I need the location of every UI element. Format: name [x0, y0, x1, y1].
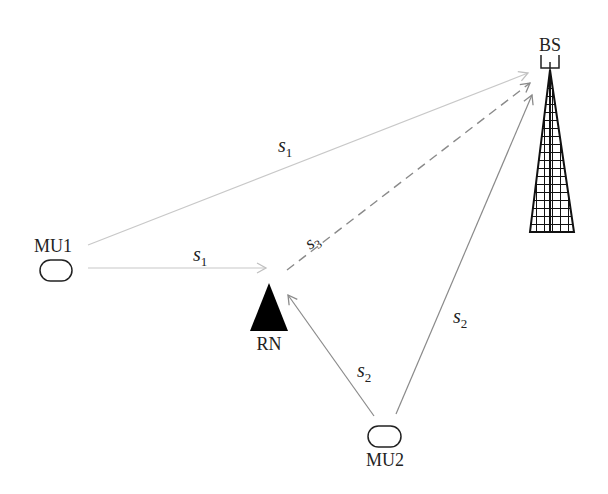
mu2-label: MU2: [366, 450, 404, 470]
edge-label-mu2-rn: s2: [357, 359, 371, 385]
mu2-device-icon: [368, 426, 401, 447]
edge-label-rn-bs: s3: [301, 230, 325, 256]
bs-tower-icon: [530, 55, 574, 232]
bs-label: BS: [539, 35, 561, 55]
mu1-device-icon: [40, 260, 72, 281]
relay-network-diagram: s1 s1 s3 s2 s2 BS MU1 RN MU2: [0, 0, 608, 494]
edge-label-mu1-rn: s1: [193, 243, 207, 269]
mu1-label: MU1: [34, 236, 72, 256]
rn-label: RN: [256, 334, 281, 354]
edge-rn-bs-dashed: [287, 83, 530, 270]
rn-relay-icon: [250, 283, 288, 331]
edge-mu1-bs: [88, 73, 528, 245]
edge-mu2-bs: [396, 95, 532, 414]
edge-label-mu1-bs: s1: [278, 134, 292, 160]
edge-mu2-rn: [288, 295, 374, 416]
edge-label-mu2-bs: s2: [453, 305, 467, 331]
